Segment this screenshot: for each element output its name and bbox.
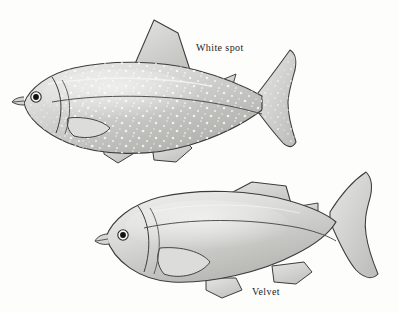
- eye-pupil: [120, 232, 126, 238]
- label-velvet: Velvet: [252, 286, 280, 297]
- eye-pupil: [33, 94, 39, 100]
- anal-fin: [272, 262, 312, 284]
- label-white-spot: White spot: [196, 42, 244, 53]
- fish-disease-figure: White spot Velvet: [0, 0, 398, 312]
- pelvic-fin: [206, 278, 242, 298]
- caudal-fin: [330, 172, 378, 277]
- lower-fish-velvet: [95, 172, 378, 298]
- upper-fish-white-spot: [12, 20, 305, 163]
